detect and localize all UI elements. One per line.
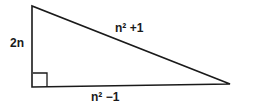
right-angle-marker bbox=[33, 73, 47, 87]
triangle bbox=[32, 6, 230, 87]
label-vertical-leg: 2n bbox=[10, 36, 24, 50]
right-triangle-diagram: 2n n² +1 n² −1 bbox=[0, 0, 253, 111]
label-horizontal-leg: n² −1 bbox=[91, 90, 120, 104]
label-hypotenuse: n² +1 bbox=[115, 21, 144, 35]
